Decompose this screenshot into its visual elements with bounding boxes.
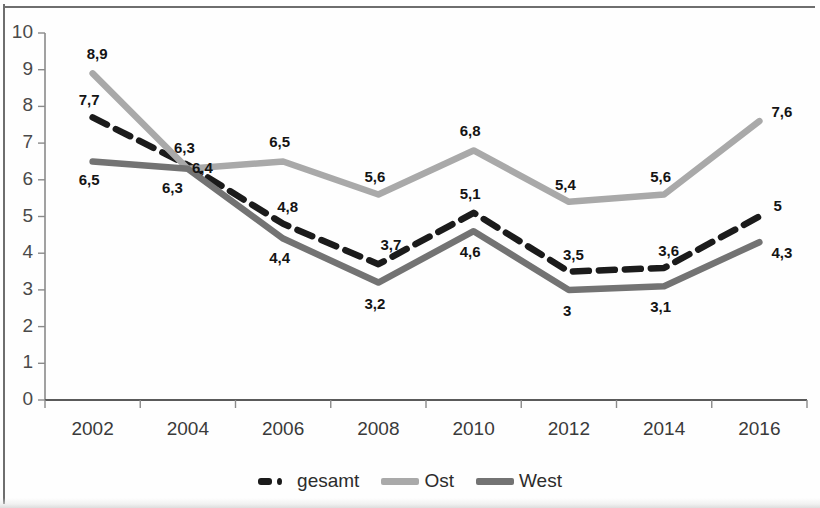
chart-legend: gesamt Ost West <box>0 470 820 492</box>
legend-label-ost: Ost <box>424 470 454 492</box>
data-label-ost: 6,5 <box>269 133 290 150</box>
y-axis-tick-label: 2 <box>5 315 33 337</box>
data-label-west: 4,4 <box>269 249 290 266</box>
legend-item-gesamt[interactable]: gesamt <box>258 470 359 492</box>
data-label-ost: 5,4 <box>555 176 576 193</box>
data-label-gesamt: 3,7 <box>380 236 401 253</box>
y-axis-tick-label: 0 <box>5 388 33 410</box>
data-label-ost: 7,6 <box>771 103 792 120</box>
legend-item-west[interactable]: West <box>476 470 562 492</box>
page-bottom-shading <box>0 498 820 508</box>
legend-label-west: West <box>519 470 562 492</box>
data-label-west: 4,3 <box>771 244 792 261</box>
data-label-gesamt: 5,1 <box>460 185 481 202</box>
y-axis-tick-label: 1 <box>5 351 33 373</box>
y-axis-tick-label: 6 <box>5 168 33 190</box>
x-axis-tick-label: 2012 <box>529 418 609 440</box>
data-label-gesamt: 4,8 <box>277 198 298 215</box>
data-label-west: 3 <box>563 302 571 319</box>
y-axis-tick-label: 5 <box>5 205 33 227</box>
y-axis-tick-label: 8 <box>5 94 33 116</box>
x-axis-tick-label: 2004 <box>148 418 228 440</box>
y-axis-tick-label: 9 <box>5 58 33 80</box>
y-axis-tick-label: 10 <box>5 21 33 43</box>
axis-layer <box>38 33 807 408</box>
y-axis-tick-label: 3 <box>5 278 33 300</box>
data-label-gesamt: 5 <box>773 197 781 214</box>
legend-swatch-west <box>476 478 514 485</box>
data-label-ost: 6,8 <box>460 122 481 139</box>
legend-swatch-ost <box>381 478 419 485</box>
x-axis-tick-label: 2006 <box>243 418 323 440</box>
chart-page: 012345678910 200220042006200820102012201… <box>0 0 820 508</box>
data-label-gesamt: 6,4 <box>192 159 213 176</box>
x-axis-tick-label: 2014 <box>624 418 704 440</box>
x-axis-tick-label: 2008 <box>338 418 418 440</box>
legend-item-ost[interactable]: Ost <box>381 470 454 492</box>
data-label-ost: 5,6 <box>650 168 671 185</box>
data-label-ost: 5,6 <box>364 168 385 185</box>
data-label-west: 3,1 <box>650 298 671 315</box>
data-label-ost: 6,3 <box>174 139 195 156</box>
data-label-ost: 8,9 <box>87 45 108 62</box>
data-label-gesamt: 3,5 <box>563 246 584 263</box>
data-label-gesamt: 3,6 <box>658 242 679 259</box>
y-axis-tick-label: 7 <box>5 131 33 153</box>
y-axis-tick-label: 4 <box>5 241 33 263</box>
legend-label-gesamt: gesamt <box>297 470 359 492</box>
x-axis-tick-label: 2002 <box>53 418 133 440</box>
data-label-west: 4,6 <box>460 243 481 260</box>
legend-swatch-gesamt <box>258 478 292 485</box>
data-label-west: 3,2 <box>364 295 385 312</box>
x-axis-tick-label: 2016 <box>719 418 799 440</box>
x-axis-tick-label: 2010 <box>434 418 514 440</box>
data-label-gesamt: 7,7 <box>79 91 100 108</box>
data-label-west: 6,3 <box>162 179 183 196</box>
data-label-west: 6,5 <box>79 171 100 188</box>
